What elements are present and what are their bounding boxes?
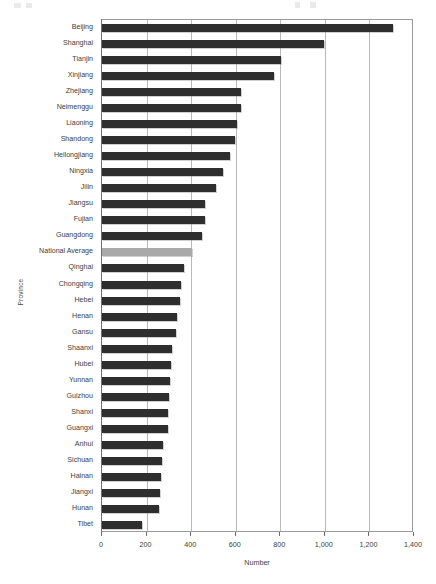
- category-label-hunan: Hunan: [72, 503, 93, 513]
- category-label-sichuan: Sichuan: [67, 455, 93, 465]
- x-tick: [368, 532, 369, 536]
- x-tick-label: 0: [79, 539, 123, 550]
- x-tick-label: 600: [213, 539, 257, 550]
- category-label-ningxia: Ningxia: [69, 166, 93, 176]
- bar-yunnan: [102, 377, 170, 385]
- bar-tibet: [102, 521, 142, 529]
- bar-sichuan: [102, 457, 162, 465]
- category-label-guangdong: Guangdong: [56, 230, 93, 240]
- scan-artifact: [310, 2, 316, 8]
- category-label-chongqing: Chongqing: [59, 279, 93, 289]
- bar-henan: [102, 313, 177, 321]
- x-tick-label: 1,400: [391, 539, 435, 550]
- x-axis-ticks: [101, 532, 414, 537]
- gridline: [191, 20, 192, 531]
- bar-shanxi: [102, 409, 168, 417]
- bar-gansu: [102, 329, 176, 337]
- bar-liaoning: [102, 120, 237, 128]
- x-axis-tick-labels: 02004006008001,0001,2001,400: [0, 539, 436, 551]
- plot-area: [101, 19, 413, 532]
- category-label-qinghai: Qinghai: [69, 262, 93, 272]
- category-label-shandong: Shandong: [61, 134, 93, 144]
- bar-shandong: [102, 136, 235, 144]
- category-label-national-average: National Average: [39, 246, 93, 256]
- bar-chongqing: [102, 281, 181, 289]
- bar-anhui: [102, 441, 163, 449]
- bar-hunan: [102, 505, 159, 513]
- bar-hubei: [102, 361, 171, 369]
- x-tick: [279, 532, 280, 536]
- x-tick-label: 1,000: [302, 539, 346, 550]
- x-tick: [101, 532, 102, 536]
- bar-xinjiang: [102, 72, 274, 80]
- category-label-anhui: Anhui: [75, 439, 93, 449]
- bar-zhejiang: [102, 88, 241, 96]
- bar-jiangxi: [102, 489, 160, 497]
- bar-hainan: [102, 473, 161, 481]
- x-tick-label: 1,200: [346, 539, 390, 550]
- bar-guizhou: [102, 393, 169, 401]
- category-label-guangxi: Guangxi: [67, 423, 93, 433]
- bar-ningxia: [102, 168, 223, 176]
- category-label-shaanxi: Shaanxi: [67, 343, 93, 353]
- gridline: [369, 20, 370, 531]
- category-label-beijing: Beijing: [72, 22, 93, 32]
- x-tick-label: 200: [124, 539, 168, 550]
- category-label-shanxi: Shanxi: [71, 407, 93, 417]
- category-label-liaoning: Liaoning: [66, 118, 93, 128]
- category-axis-labels: BeijingShanghaiTianjinXinjiangZhejiangNe…: [18, 19, 97, 532]
- category-label-shanghai: Shanghai: [63, 38, 93, 48]
- x-tick: [324, 532, 325, 536]
- category-label-jiangxi: Jiangxi: [71, 487, 93, 497]
- category-label-henan: Henan: [72, 311, 93, 321]
- bar-beijing: [102, 24, 393, 32]
- category-label-yunnan: Yunnan: [69, 375, 93, 385]
- category-label-fujian: Fujian: [74, 214, 93, 224]
- bar-hebei: [102, 297, 180, 305]
- bar-fujian: [102, 216, 205, 224]
- bar-jiangsu: [102, 200, 205, 208]
- category-label-heilongjiang: Heilongjiang: [54, 150, 93, 160]
- category-label-neimenggu: Neimenggu: [57, 102, 93, 112]
- bar-neimenggu: [102, 104, 241, 112]
- category-label-guizhou: Guizhou: [67, 391, 93, 401]
- scan-artifact: [295, 2, 300, 8]
- gridline: [147, 20, 148, 531]
- bar-jilin: [102, 184, 216, 192]
- bar-guangxi: [102, 425, 168, 433]
- bar-national-average: [102, 248, 192, 256]
- gridline: [280, 20, 281, 531]
- category-label-hainan: Hainan: [71, 471, 93, 481]
- category-label-tianjin: Tianjin: [72, 54, 93, 64]
- category-label-jilin: Jilin: [81, 182, 93, 192]
- bar-shanghai: [102, 40, 324, 48]
- bar-shaanxi: [102, 345, 172, 353]
- bar-qinghai: [102, 264, 184, 272]
- x-tick: [146, 532, 147, 536]
- category-label-xinjiang: Xinjiang: [68, 70, 93, 80]
- x-tick: [413, 532, 414, 536]
- x-tick-label: 800: [257, 539, 301, 550]
- category-label-gansu: Gansu: [72, 327, 93, 337]
- x-tick: [190, 532, 191, 536]
- x-axis-title: Number: [101, 558, 413, 567]
- category-label-hebei: Hebei: [74, 295, 93, 305]
- category-label-zhejiang: Zhejiang: [66, 86, 93, 96]
- gridline: [236, 20, 237, 531]
- category-label-jiangsu: Jiangsu: [69, 198, 93, 208]
- category-label-hubei: Hubei: [74, 359, 93, 369]
- bar-guangdong: [102, 232, 202, 240]
- bar-chart: Province BeijingShanghaiTianjinXinjiangZ…: [0, 0, 436, 584]
- category-label-tibet: Tibet: [77, 519, 93, 529]
- x-tick-label: 400: [168, 539, 212, 550]
- x-tick: [235, 532, 236, 536]
- bar-heilongjiang: [102, 152, 230, 160]
- gridline: [325, 20, 326, 531]
- bar-tianjin: [102, 56, 281, 64]
